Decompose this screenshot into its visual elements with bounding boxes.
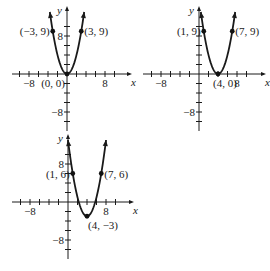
y-tick-label: −8 — [52, 234, 64, 246]
point-label: (4, 0) — [213, 77, 237, 90]
x-tick-label: 8 — [102, 77, 108, 89]
y-axis-arrow-icon — [66, 134, 70, 139]
data-point — [85, 214, 90, 219]
data-point — [216, 72, 221, 77]
data-point — [65, 72, 70, 77]
data-point — [79, 29, 84, 34]
x-tick-label: −8 — [24, 205, 36, 217]
data-point — [230, 29, 235, 34]
y-axis-label: y — [57, 132, 63, 144]
x-tick-label: −8 — [155, 77, 167, 89]
point-label: (1, 6) — [46, 168, 70, 181]
x-axis-label: x — [132, 204, 138, 216]
y-tick-label: −8 — [51, 106, 63, 118]
data-point — [50, 29, 55, 34]
data-point — [99, 171, 104, 176]
point-label: (−3, 9) — [20, 25, 50, 38]
point-label: (0, 0) — [41, 77, 65, 90]
y-tick-label: −8 — [183, 106, 195, 118]
y-axis-arrow-icon — [197, 6, 201, 11]
point-label: (7, 9) — [235, 25, 259, 38]
point-label: (3, 9) — [84, 25, 108, 38]
x-axis-label: x — [264, 76, 270, 88]
parabola-curve — [201, 12, 235, 74]
data-point — [70, 171, 75, 176]
x-axis-label: x — [130, 76, 136, 88]
y-tick-label: 8 — [58, 30, 64, 42]
y-axis-label: y — [188, 4, 194, 16]
point-label: (1, 9) — [177, 25, 201, 38]
data-point — [201, 29, 206, 34]
y-axis-label: y — [56, 4, 62, 16]
point-label: (7, 6) — [104, 168, 128, 181]
x-tick-label: 8 — [103, 205, 109, 217]
x-tick-label: −8 — [23, 77, 35, 89]
y-axis-arrow-icon — [65, 6, 69, 11]
point-label: (4, −3) — [88, 219, 118, 232]
parabola-graphs: xy−888−8(−3, 9)(3, 9)(0, 0)xy−88−8(1, 9)… — [0, 0, 270, 271]
